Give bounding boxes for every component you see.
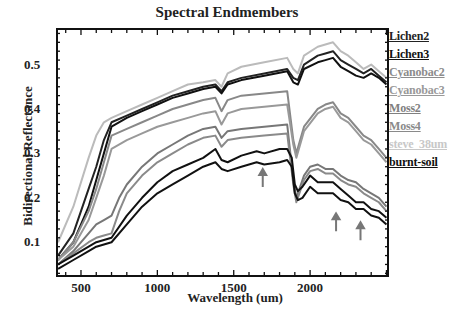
series-lines: [58, 42, 386, 269]
legend-item-burnt-soil: burnt-soil: [389, 155, 438, 170]
legend-item-lichen3: Lichen3: [389, 47, 429, 62]
arrow-icon: [259, 169, 266, 187]
x-axis-label: Wavelength (um): [150, 290, 320, 306]
arrow-icon: [333, 213, 340, 231]
y-tick-label: 0.1: [24, 234, 40, 250]
legend-item-moss2: Moss2: [389, 101, 421, 116]
plot-area: [0, 0, 454, 321]
legend-item-moss4: Moss4: [389, 119, 421, 134]
y-tick-label: 0.5: [24, 57, 40, 73]
series-line: [58, 58, 386, 260]
legend-item-cyanobac3: Cyanobac3: [389, 83, 445, 98]
legend-item-cyanobac2: Cyanobac2: [389, 65, 445, 80]
legend-item-lichen2: Lichen2: [389, 29, 429, 44]
y-axis-label: Bidirectional Reflectance: [20, 76, 36, 236]
series-line: [58, 105, 386, 260]
arrow-icon: [357, 222, 364, 240]
legend-item-steve-38um: steve_38um: [389, 137, 447, 152]
x-tick-label: 500: [71, 280, 91, 296]
